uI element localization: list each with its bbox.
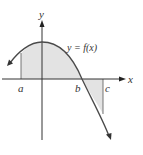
y-axis-arrow-icon — [40, 20, 45, 27]
y-axis-label: y — [38, 8, 44, 20]
point-label-c: c — [105, 82, 110, 94]
x-axis-label: x — [127, 73, 133, 85]
curve-right-arrow-icon — [106, 133, 112, 140]
point-label-a: a — [18, 82, 24, 94]
area-under-curve-diagram: y x y = f(x) a b c — [0, 0, 143, 155]
curve-label: y = f(x) — [66, 42, 98, 54]
x-axis-arrow-icon — [119, 77, 126, 82]
point-label-b: b — [75, 82, 81, 94]
